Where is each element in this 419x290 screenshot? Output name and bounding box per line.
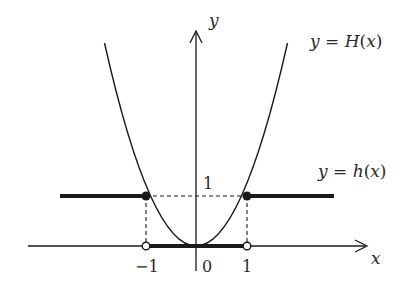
function-graph-diagram: y x −1 0 1 1 y = H(x) y = h(x): [0, 0, 419, 290]
x-tick-neg1: −1: [135, 257, 159, 276]
y-axis: [190, 31, 202, 271]
curve-h-piecewise: [60, 196, 334, 246]
x-tick-1: 1: [242, 257, 252, 276]
x-axis-label: x: [371, 248, 381, 268]
open-point-neg1-0: [142, 242, 150, 250]
filled-point-neg1-1: [142, 192, 151, 201]
x-tick-0: 0: [202, 257, 212, 276]
y-axis-label: y: [208, 10, 219, 30]
label-h: y = h(x): [317, 161, 387, 181]
y-tick-1: 1: [203, 174, 213, 193]
open-point-1-0: [243, 242, 251, 250]
filled-point-1-1: [243, 192, 252, 201]
label-H: y = H(x): [309, 31, 382, 51]
